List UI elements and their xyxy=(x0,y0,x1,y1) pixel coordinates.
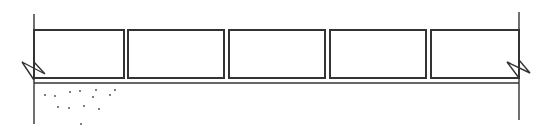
stipple-dot xyxy=(54,95,56,97)
masonry-diagram xyxy=(0,0,546,134)
block-4 xyxy=(330,30,426,78)
block-2 xyxy=(128,30,224,78)
stipple-dot xyxy=(68,107,70,109)
stipple-dot xyxy=(92,96,94,98)
stipple-dot xyxy=(69,91,71,93)
stipple-dot xyxy=(80,123,82,125)
stipple-dot xyxy=(98,108,100,110)
block-1 xyxy=(34,30,124,78)
stipple-fill xyxy=(44,89,116,125)
stipple-dot xyxy=(83,105,85,107)
stipple-dot xyxy=(44,94,46,96)
block-row xyxy=(34,30,519,78)
stipple-dot xyxy=(109,94,111,96)
stipple-dot xyxy=(114,89,116,91)
block-5 xyxy=(431,30,519,78)
block-3 xyxy=(229,30,325,78)
stipple-dot xyxy=(57,106,59,108)
stipple-dot xyxy=(95,89,97,91)
stipple-dot xyxy=(79,90,81,92)
